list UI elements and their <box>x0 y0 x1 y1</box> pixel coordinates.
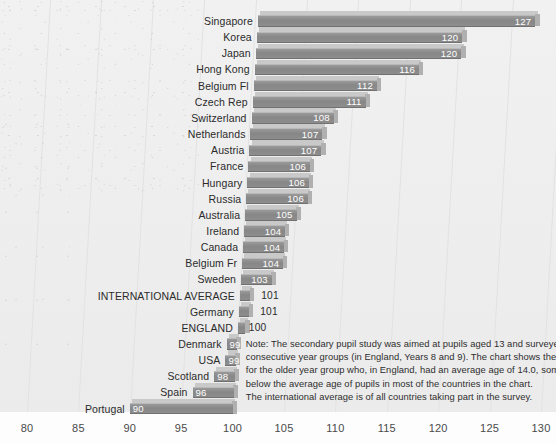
bar-value-label: 96 <box>196 386 233 399</box>
bar-front-face <box>239 306 249 317</box>
bar-side-face <box>234 369 239 382</box>
bar-category-label: Denmark <box>0 336 222 352</box>
bar-value-label: 111 <box>253 95 362 108</box>
bar-value-label: 107 <box>249 144 317 157</box>
bar-category-label: Belgium Fr <box>0 255 237 271</box>
bar-category-label: Germany <box>0 304 234 320</box>
x-axis-tick-label: 80 <box>21 422 34 434</box>
bar-value-label: 105 <box>245 208 292 221</box>
bar-category-label: Netherlands <box>0 126 245 142</box>
bar-category-label: Belgium Fl <box>0 78 249 94</box>
chart-note-line: Note: The secondary pupil study was aime… <box>246 337 548 350</box>
bar-side-face <box>309 175 314 188</box>
bar-value-label: 101 <box>260 305 278 318</box>
x-axis-tick-label: 125 <box>480 422 499 434</box>
bar-value-label: 127 <box>258 15 532 28</box>
bar-value-label: 106 <box>246 192 304 205</box>
x-axis-tick-label: 130 <box>532 422 551 434</box>
bar-category-label: Australia <box>0 207 240 223</box>
bar-category-label: Ireland <box>0 223 239 239</box>
bar-category-label: Switzerland <box>0 110 247 126</box>
bar-side-face <box>284 240 289 253</box>
bar-category-label: Korea <box>0 29 252 45</box>
bar-side-face <box>271 272 276 285</box>
bar-value-label: 104 <box>242 257 279 270</box>
bar-row[interactable]: Belgium Fr104 <box>0 255 556 271</box>
bar-side-face <box>461 46 466 59</box>
bar-value-label: 99 <box>228 354 234 367</box>
bar-value-label: 98 <box>217 370 234 383</box>
bar-side-face <box>308 191 313 204</box>
bar-side-face <box>296 207 301 220</box>
bar-category-label: ENGLAND <box>0 320 233 336</box>
bar-value-label: 106 <box>247 176 305 189</box>
bar-category-label: Canada <box>0 239 238 255</box>
bar-value-label: 100 <box>249 321 267 334</box>
x-axis-tick-label: 120 <box>429 422 448 434</box>
bar-front-face <box>238 322 246 333</box>
bar-side-face <box>365 94 370 107</box>
x-axis: 80859095100105110115120125130 <box>0 412 556 444</box>
bar-front-face <box>240 290 250 301</box>
bar-value-label: 112 <box>254 79 373 92</box>
x-axis-tick-label: 95 <box>175 422 188 434</box>
bar-value-label: 120 <box>256 47 458 60</box>
x-axis-tick-label: 85 <box>72 422 85 434</box>
chart-note-line: for the older year group who, in England… <box>246 363 548 376</box>
x-axis-tick-label: 90 <box>123 422 136 434</box>
bar-side-face <box>535 14 540 27</box>
bar-value-label: 107 <box>250 128 318 141</box>
bar-side-face <box>249 304 254 317</box>
bar-value-label: 120 <box>257 31 459 44</box>
bar-side-face <box>462 30 467 43</box>
bar-value-label: 103 <box>241 273 268 286</box>
bar-category-label: Hungary <box>0 175 242 191</box>
bar-side-face <box>233 385 238 398</box>
bar-side-face <box>285 224 290 237</box>
chart-note-line: The international average is of all coun… <box>246 390 548 403</box>
bar-row[interactable]: ENGLAND100 <box>0 320 556 336</box>
bar-category-label: Japan <box>0 45 251 61</box>
bar-row[interactable]: INTERNATIONAL AVERAGE101 <box>0 288 556 304</box>
bar-value-label: 99 <box>230 338 236 351</box>
bar-category-label: INTERNATIONAL AVERAGE <box>0 288 235 304</box>
x-axis-tick-label: 115 <box>378 422 396 434</box>
chart-note-line: consecutive year groups (in England, Yea… <box>246 350 548 363</box>
x-axis-tick-label: 105 <box>275 422 294 434</box>
bar-value-label: 108 <box>252 111 330 124</box>
bar-category-label: Czech Rep <box>0 94 248 110</box>
bar-category-label: Austria <box>0 142 244 158</box>
bar-category-label: Russia <box>0 191 241 207</box>
chart-note: Note: The secondary pupil study was aime… <box>246 337 548 403</box>
bar-category-label: France <box>0 158 243 174</box>
bar-side-face <box>321 143 326 156</box>
bar-row[interactable]: Sweden103 <box>0 271 556 287</box>
bar-value-label: 106 <box>248 160 306 173</box>
bar-category-label: Singapore <box>0 13 253 29</box>
x-axis-tick-label: 110 <box>326 422 344 434</box>
bar-side-face <box>283 256 288 269</box>
bar-side-face <box>250 288 255 301</box>
bar-row[interactable]: Germany101 <box>0 304 556 320</box>
x-axis-tick-label: 100 <box>223 422 242 434</box>
bar-side-face <box>310 159 315 172</box>
bar-value-label: 104 <box>244 225 281 238</box>
bar-value-label: 116 <box>255 63 415 76</box>
bar-category-label: Sweden <box>0 271 236 287</box>
bar-value-label: 101 <box>261 289 279 302</box>
bar-value-label: 104 <box>243 241 280 254</box>
bar[interactable] <box>238 320 246 336</box>
bar-side-face <box>333 110 338 123</box>
chart-note-line: below the average age of pupils in most … <box>246 377 548 390</box>
bar-category-label: USA <box>0 352 220 368</box>
bar-side-face <box>419 62 424 75</box>
bar-category-label: Scotland <box>0 368 209 384</box>
bar-category-label: Hong Kong <box>0 61 250 77</box>
bar-side-face <box>322 127 327 140</box>
bar-chart: Singapore127Korea120Japan120Hong Kong116… <box>0 0 556 444</box>
bar-side-face <box>377 78 382 91</box>
